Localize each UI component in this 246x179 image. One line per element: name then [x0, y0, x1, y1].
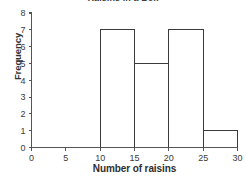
histogram-bar	[203, 131, 237, 148]
y-tick-label: 2	[20, 109, 25, 119]
y-ticks-group: 012345678	[20, 8, 32, 153]
histogram-bar	[169, 30, 203, 148]
histogram-bar	[100, 30, 134, 148]
x-tick-label: 5	[63, 153, 68, 163]
plot-area: 012345678 051015202530	[0, 0, 246, 179]
y-tick-label: 8	[20, 8, 25, 18]
x-tick-label: 15	[129, 153, 139, 163]
x-tick-label: 10	[95, 153, 105, 163]
y-tick-label: 7	[20, 25, 25, 35]
x-tick-label: 20	[164, 153, 174, 163]
y-tick-label: 1	[20, 126, 25, 136]
x-tick-label: 30	[232, 153, 242, 163]
x-ticks-group: 051015202530	[29, 147, 243, 163]
y-tick-label: 4	[20, 76, 25, 86]
x-tick-label: 0	[29, 153, 34, 163]
y-tick-label: 3	[20, 92, 25, 102]
y-tick-label: 6	[20, 42, 25, 52]
histogram-figure: Raisins in a Box Frequency Number of rai…	[0, 0, 246, 179]
y-tick-label: 5	[20, 59, 25, 69]
x-tick-label: 25	[198, 153, 208, 163]
y-tick-label: 0	[20, 143, 25, 153]
histogram-bar	[135, 63, 169, 147]
bars-group	[100, 30, 237, 148]
